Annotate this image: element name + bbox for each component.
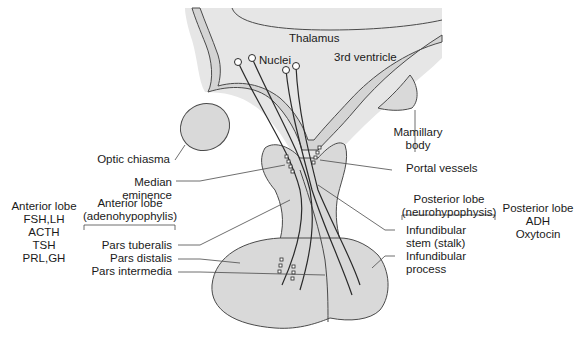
third-ventricle-label: 3rd ventricle	[334, 51, 397, 64]
mamillary-body-label: Mamillary body	[392, 126, 444, 152]
posterior-lobe-group-label: Posterior lobe (neurohypophysis)	[400, 193, 498, 219]
portal-vessels-label: Portal vessels	[406, 162, 478, 175]
anterior-lobe-group-label: Anterior lobe (adenohypophylis)	[82, 197, 178, 223]
infundibular-stem-label: Infundibular stem (stalk)	[406, 224, 466, 250]
pars-distalis-label: Pars distalis	[90, 252, 172, 265]
pituitary-body-shape	[212, 238, 388, 328]
pars-intermedia-label: Pars intermedia	[80, 265, 172, 278]
thalamus-label: Thalamus	[289, 32, 340, 45]
nuclei-label: Nuclei	[259, 54, 291, 67]
posterior-hormones-list: Posterior lobe ADH Oxytocin	[500, 202, 576, 241]
infundibular-process-label: Infundibular process	[406, 250, 466, 276]
pars-tuberalis-label: Pars tuberalis	[90, 239, 172, 252]
optic-chiasma-label: Optic chiasma	[90, 153, 170, 166]
anterior-hormones-list: Anterior lobe FSH,LH ACTH TSH PRL,GH	[10, 200, 78, 265]
pituitary-diagram	[0, 0, 577, 341]
